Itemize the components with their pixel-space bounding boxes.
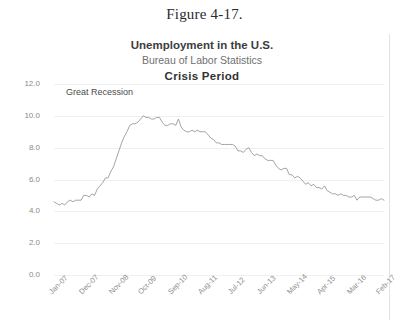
annotation-great-recession: Great Recession: [66, 87, 133, 97]
figure-caption: Figure 4-17.: [0, 6, 409, 23]
y-axis-tick-label: 0.0: [6, 270, 40, 279]
gridline: [54, 275, 384, 276]
y-axis-tick-label: 12.0: [6, 79, 40, 88]
x-axis-tick-label: Nov-08: [106, 273, 129, 296]
y-axis-tick-label: 10.0: [6, 111, 40, 120]
x-axis-tick-label: Jan-07: [47, 274, 70, 297]
x-axis-tick-label: Apr-15: [315, 274, 337, 296]
x-axis-labels: Jan-07Dec-07Nov-08Oct-09Sep-10Aug-11Jul-…: [54, 277, 390, 321]
chart-container: Unemployment in the U.S. Bureau of Labor…: [14, 34, 390, 320]
y-axis-tick-label: 8.0: [6, 143, 40, 152]
chart-subtitle: Bureau of Labor Statistics: [14, 54, 390, 66]
y-axis-tick-label: 2.0: [6, 238, 40, 247]
chart-crisis-period-label: Crisis Period: [14, 70, 390, 82]
x-axis-tick-label: Dec-07: [77, 273, 100, 296]
chart-title: Unemployment in the U.S.: [14, 39, 390, 51]
plot-area: 12.010.08.06.04.02.00.0: [54, 84, 384, 275]
x-axis-tick-label: Jun-13: [255, 274, 278, 297]
x-axis-tick-label: Feb-17: [374, 273, 397, 296]
unemployment-line-series: [54, 84, 384, 275]
x-axis-tick-label: Mar-16: [344, 273, 367, 296]
y-axis-tick-label: 4.0: [6, 206, 40, 215]
x-axis-tick-label: Oct-09: [136, 274, 158, 296]
x-axis-tick-label: Jul-12: [225, 275, 246, 296]
y-axis-tick-label: 6.0: [6, 175, 40, 184]
x-axis-tick-label: Aug-11: [196, 273, 219, 296]
x-axis-tick-label: Sep-10: [166, 273, 189, 296]
